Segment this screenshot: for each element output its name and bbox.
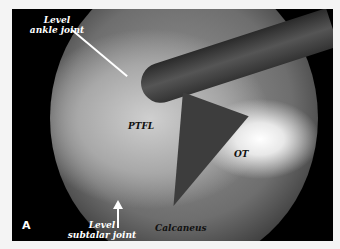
label-ptfl: PTFL [128, 121, 154, 131]
label-ot: OT [234, 149, 249, 159]
arthroscopic-image-frame: Level ankle joint PTFL OT Level subtalar… [12, 9, 333, 241]
label-line: Level [22, 15, 92, 25]
label-line: Level [62, 220, 142, 230]
label-level-subtalar-joint: Level subtalar joint [62, 220, 142, 240]
panel-letter: A [22, 219, 31, 232]
label-calcaneus: Calcaneus [155, 223, 207, 233]
label-line: ankle joint [22, 25, 92, 35]
label-level-ankle-joint: Level ankle joint [22, 15, 92, 35]
label-line: subtalar joint [62, 230, 142, 240]
